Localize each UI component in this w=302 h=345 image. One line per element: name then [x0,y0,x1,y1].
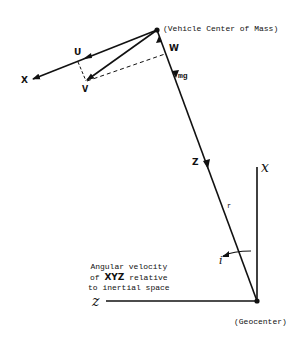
w-label: W [169,44,179,53]
u-arrow-icon [83,53,92,59]
r-label: r [227,203,231,210]
z-body-label: Z [192,158,199,167]
inclination-label: i [219,255,223,266]
mg-label: mg [178,72,188,80]
z-arrow-icon [203,159,210,169]
velocity-vector [87,30,157,80]
inertial-x-label: x [261,160,269,174]
geocenter-label: (Geocenter) [234,318,287,326]
vehicle-center-label: (Vehicle Center of Mass) [163,25,278,33]
u-label: U [74,48,81,57]
w-component-dashed [87,54,165,81]
geocenter-point [254,298,259,303]
x-body-axis [33,30,157,79]
caption-pre: of [90,273,104,282]
caption-post: relative [124,273,167,282]
diagram-canvas [0,0,302,345]
caption-xyz: XYZ [104,272,124,282]
u-component-dashed [78,62,86,81]
inertial-z-label: z [92,294,99,308]
caption-line-3: to inertial space [88,283,170,293]
inclination-arrow-icon [222,251,229,257]
caption-line-1: Angular velocity [88,262,170,272]
angular-velocity-caption: Angular velocity of XYZ relative to iner… [88,262,170,293]
v-label: V [82,86,88,94]
x-body-label: X [21,76,28,85]
vehicle-center-point [154,27,159,32]
caption-line-2: of XYZ relative [88,272,170,283]
